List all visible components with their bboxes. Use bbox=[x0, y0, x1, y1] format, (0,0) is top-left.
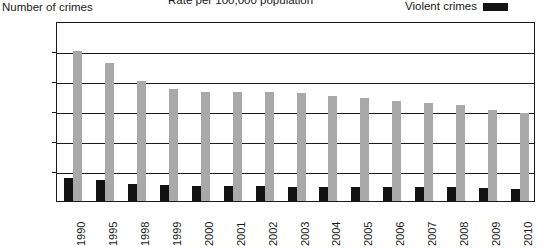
bar-group bbox=[415, 23, 433, 201]
x-tick-label: 2003 bbox=[300, 222, 311, 246]
bar-property-crimes bbox=[265, 92, 274, 201]
bar-group bbox=[511, 23, 529, 201]
chart-legend: Violent crimes bbox=[405, 0, 508, 13]
bar-property-crimes bbox=[137, 81, 146, 201]
bar-property-crimes bbox=[105, 63, 114, 201]
x-tick-label: 1990 bbox=[76, 222, 87, 246]
bar-group bbox=[479, 23, 497, 201]
y-tick-mark bbox=[52, 82, 57, 83]
crime-rate-bar-chart: Number of crimes Rate per 100,000 popula… bbox=[0, 0, 544, 248]
x-tick-label: 2005 bbox=[363, 222, 374, 246]
bar-group bbox=[319, 23, 337, 201]
y-tick-mark bbox=[52, 112, 57, 113]
x-tick-label: 2002 bbox=[268, 222, 279, 246]
bar-group bbox=[256, 23, 274, 201]
x-tick-label: 2006 bbox=[395, 222, 406, 246]
bar-violent-crimes bbox=[128, 184, 137, 201]
bars-container bbox=[57, 23, 534, 201]
bar-violent-crimes bbox=[96, 180, 105, 201]
x-tick-label: 1998 bbox=[140, 222, 151, 246]
bar-violent-crimes bbox=[383, 187, 392, 201]
bar-violent-crimes bbox=[319, 187, 328, 201]
bar-violent-crimes bbox=[224, 186, 233, 201]
bar-property-crimes bbox=[297, 93, 306, 201]
x-tick-label: 2009 bbox=[491, 222, 502, 246]
bar-property-crimes bbox=[520, 113, 529, 201]
bar-violent-crimes bbox=[479, 188, 488, 201]
bar-group bbox=[351, 23, 369, 201]
y-tick-mark bbox=[52, 172, 57, 173]
bar-violent-crimes bbox=[64, 178, 73, 201]
plot-area bbox=[56, 22, 535, 202]
y-axis-title: Number of crimes bbox=[2, 1, 93, 14]
bar-property-crimes bbox=[73, 51, 82, 201]
bar-property-crimes bbox=[456, 105, 465, 201]
y-tick-mark bbox=[52, 142, 57, 143]
x-tick-label: 1995 bbox=[108, 222, 119, 246]
bar-property-crimes bbox=[392, 101, 401, 202]
bar-group bbox=[383, 23, 401, 201]
bar-group bbox=[192, 23, 210, 201]
bar-property-crimes bbox=[328, 96, 337, 201]
y-tick-mark bbox=[52, 52, 57, 53]
x-tick-label: 2004 bbox=[331, 222, 342, 246]
bar-violent-crimes bbox=[447, 187, 456, 201]
bar-group bbox=[160, 23, 178, 201]
chart-title: Rate per 100,000 population bbox=[168, 0, 313, 7]
bar-group bbox=[128, 23, 146, 201]
x-tick-label: 1999 bbox=[172, 222, 183, 246]
legend-swatch-violent-crimes bbox=[483, 3, 508, 11]
bar-group bbox=[288, 23, 306, 201]
bar-violent-crimes bbox=[288, 187, 297, 201]
bar-violent-crimes bbox=[256, 186, 265, 201]
x-axis-labels: 1990199519981999200020012002200320042005… bbox=[56, 202, 535, 248]
x-tick-label: 2001 bbox=[236, 222, 247, 246]
bar-violent-crimes bbox=[415, 187, 424, 201]
bar-group bbox=[447, 23, 465, 201]
x-tick-label: 2010 bbox=[523, 222, 534, 246]
bar-violent-crimes bbox=[160, 185, 169, 201]
bar-property-crimes bbox=[233, 92, 242, 202]
bar-property-crimes bbox=[360, 98, 369, 201]
legend-label-violent-crimes: Violent crimes bbox=[405, 0, 477, 13]
x-tick-label: 2007 bbox=[427, 222, 438, 246]
bar-violent-crimes bbox=[192, 186, 201, 201]
bar-property-crimes bbox=[201, 92, 210, 201]
bar-group bbox=[224, 23, 242, 201]
bar-violent-crimes bbox=[511, 189, 520, 201]
bar-group bbox=[96, 23, 114, 201]
bar-violent-crimes bbox=[351, 187, 360, 201]
bar-property-crimes bbox=[424, 103, 433, 201]
x-tick-label: 2000 bbox=[204, 222, 215, 246]
x-tick-label: 2008 bbox=[459, 222, 470, 246]
bar-property-crimes bbox=[488, 110, 497, 201]
bar-property-crimes bbox=[169, 89, 178, 201]
bar-group bbox=[64, 23, 82, 201]
